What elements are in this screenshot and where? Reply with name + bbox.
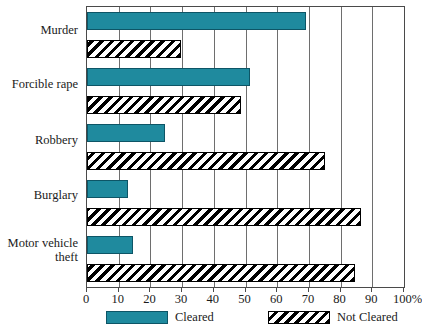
x-tick-label-90: 90 (365, 292, 378, 306)
category-label-motor-vehicle-theft: Motor vehicle theft (0, 236, 78, 264)
bar-not-cleared-motor-vehicle-theft (87, 264, 355, 282)
x-axis: 0102030405060708090100% (86, 288, 405, 308)
legend-entry-not-cleared: Not Cleared (268, 310, 398, 325)
category-label-murder: Murder (0, 24, 78, 37)
category-label-robbery: Robbery (0, 134, 78, 147)
x-tick-label-100: 100% (393, 292, 422, 306)
bar-cleared-motor-vehicle-theft (87, 236, 133, 254)
x-tick-label-70: 70 (302, 292, 315, 306)
bar-not-cleared-burglary (87, 208, 361, 226)
x-tick-label-10: 10 (111, 292, 124, 306)
chart-legend: Cleared Not Cleared (0, 310, 421, 336)
legend-entry-cleared: Cleared (106, 310, 214, 325)
x-tick-label-40: 40 (207, 292, 220, 306)
bar-cleared-robbery (87, 124, 165, 142)
x-tick-label-80: 80 (333, 292, 346, 306)
plot-area (86, 6, 405, 288)
x-tick-label-0: 0 (83, 292, 89, 306)
legend-swatch-cleared-icon (106, 311, 168, 324)
bar-not-cleared-forcible-rape (87, 96, 241, 114)
bar-not-cleared-murder (87, 40, 181, 58)
bar-cleared-murder (87, 12, 306, 30)
bar-not-cleared-robbery (87, 152, 325, 170)
x-tick-label-30: 30 (175, 292, 188, 306)
bar-cleared-forcible-rape (87, 68, 250, 86)
legend-label-cleared: Cleared (175, 310, 214, 325)
x-tick-label-50: 50 (238, 292, 251, 306)
category-axis-labels: Murder Forcible rape Robbery Burglary Mo… (0, 6, 82, 288)
category-label-forcible-rape: Forcible rape (0, 78, 78, 91)
x-tick-label-20: 20 (143, 292, 156, 306)
bars-layer (87, 7, 404, 287)
legend-label-not-cleared: Not Cleared (337, 310, 398, 325)
x-tick-label-60: 60 (270, 292, 283, 306)
bar-cleared-burglary (87, 180, 128, 198)
category-label-burglary: Burglary (0, 189, 78, 202)
legend-swatch-not-cleared-icon (268, 311, 330, 324)
